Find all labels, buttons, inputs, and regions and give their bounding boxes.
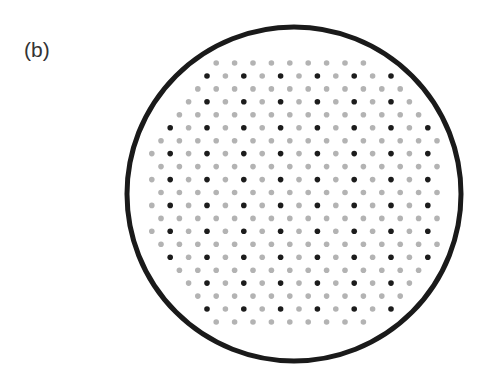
dark-dot — [315, 306, 321, 312]
light-dot — [397, 164, 403, 170]
light-dot — [250, 164, 256, 170]
light-dot — [416, 216, 422, 222]
light-dot — [333, 306, 339, 312]
light-dot — [324, 293, 330, 299]
light-dot — [397, 190, 403, 196]
light-dot — [361, 112, 367, 118]
dark-dot — [204, 306, 210, 312]
dark-dot — [388, 203, 394, 209]
light-dot — [186, 203, 192, 209]
light-dot — [232, 60, 238, 66]
light-dot — [379, 112, 385, 118]
light-dot — [177, 138, 183, 144]
light-dot — [259, 229, 265, 235]
light-dot — [324, 319, 330, 325]
light-dot — [324, 267, 330, 273]
light-dot — [361, 242, 367, 248]
light-dot — [342, 112, 348, 118]
light-dot — [269, 138, 275, 144]
light-dot — [379, 216, 385, 222]
dark-dot — [167, 125, 173, 131]
dark-dot — [425, 125, 431, 131]
light-dot — [361, 267, 367, 273]
dark-dot — [204, 229, 210, 235]
dark-dot — [388, 151, 394, 157]
light-dot — [269, 319, 275, 325]
light-dot — [250, 216, 256, 222]
light-dot — [296, 99, 302, 105]
light-dot — [296, 254, 302, 260]
light-dot — [223, 229, 229, 235]
light-dot — [232, 138, 238, 144]
dark-dot — [425, 203, 431, 209]
light-dot — [213, 267, 219, 273]
light-dot — [232, 216, 238, 222]
light-dot — [250, 267, 256, 273]
light-dot — [232, 319, 238, 325]
light-dot — [259, 73, 265, 79]
light-dot — [416, 190, 422, 196]
light-dot — [416, 242, 422, 248]
light-dot — [407, 99, 413, 105]
light-dot — [333, 280, 339, 286]
light-dot — [305, 86, 311, 92]
dark-dot — [278, 229, 284, 235]
light-dot — [250, 293, 256, 299]
light-dot — [259, 177, 265, 183]
light-dot — [287, 86, 293, 92]
dark-dot — [204, 177, 210, 183]
light-dot — [342, 190, 348, 196]
light-dot — [342, 138, 348, 144]
light-dot — [223, 125, 229, 131]
dark-dot — [204, 254, 210, 260]
light-dot — [324, 164, 330, 170]
light-dot — [361, 164, 367, 170]
light-dot — [370, 229, 376, 235]
light-dot — [434, 190, 440, 196]
light-dot — [333, 99, 339, 105]
dark-dot — [167, 177, 173, 183]
light-dot — [324, 242, 330, 248]
light-dot — [223, 280, 229, 286]
dark-dot — [315, 99, 321, 105]
light-dot — [324, 60, 330, 66]
light-dot — [195, 242, 201, 248]
light-dot — [305, 60, 311, 66]
light-dot — [269, 216, 275, 222]
light-dot — [177, 267, 183, 273]
light-dot — [232, 86, 238, 92]
light-dot — [223, 99, 229, 105]
light-dot — [342, 267, 348, 273]
light-dot — [158, 138, 164, 144]
dark-dot — [278, 151, 284, 157]
light-dot — [342, 60, 348, 66]
light-dot — [232, 112, 238, 118]
light-dot — [250, 86, 256, 92]
dark-dot — [241, 73, 247, 79]
light-dot — [305, 267, 311, 273]
dark-dot — [278, 203, 284, 209]
light-dot — [296, 280, 302, 286]
light-dot — [296, 73, 302, 79]
light-dot — [333, 203, 339, 209]
dark-dot — [351, 73, 357, 79]
light-dot — [370, 177, 376, 183]
dark-dot — [425, 254, 431, 260]
light-dot — [186, 229, 192, 235]
dark-dot — [204, 99, 210, 105]
dark-dot — [278, 306, 284, 312]
light-dot — [333, 177, 339, 183]
light-dot — [213, 86, 219, 92]
light-dot — [269, 293, 275, 299]
light-dot — [250, 319, 256, 325]
light-dot — [223, 177, 229, 183]
light-dot — [177, 242, 183, 248]
light-dot — [259, 151, 265, 157]
dark-dot — [425, 177, 431, 183]
light-dot — [370, 125, 376, 131]
dark-dot — [278, 254, 284, 260]
light-dot — [232, 190, 238, 196]
dark-dot — [425, 229, 431, 235]
light-dot — [397, 216, 403, 222]
light-dot — [149, 151, 155, 157]
